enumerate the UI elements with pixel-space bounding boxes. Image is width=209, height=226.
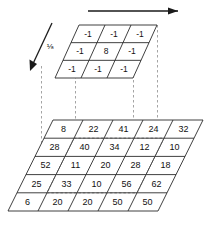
kernel-cell: -1 — [76, 46, 84, 56]
image-cell: 62 — [151, 179, 161, 189]
image-cell: 52 — [40, 160, 50, 170]
kernel-cell: -1 — [110, 29, 118, 39]
image-cell: 32 — [178, 124, 188, 134]
image-cell: 8 — [61, 124, 66, 134]
image-cell: 56 — [121, 179, 131, 189]
kernel-cell: -1 — [94, 64, 102, 74]
kernel-cell: -1 — [120, 64, 128, 74]
image-cell: 20 — [82, 197, 92, 207]
convolution-figure: ⅛ -1 -1 -1 -1 8 -1 -1 -1 -1 — [0, 0, 209, 226]
kernel-cell: -1 — [128, 46, 136, 56]
pixel-value-grid: 8 22 41 24 32 28 40 34 12 10 52 11 20 28… — [8, 120, 203, 211]
row-direction-arrow: ⅛ — [30, 23, 54, 71]
image-cell: 12 — [139, 142, 149, 152]
kernel-cell: -1 — [136, 29, 144, 39]
image-cell: 33 — [61, 179, 71, 189]
column-arrow-head — [168, 8, 178, 15]
image-cell: 40 — [79, 142, 89, 152]
image-cell: 34 — [109, 142, 119, 152]
kernel-scale-label: ⅛ — [47, 42, 54, 51]
image-cell: 11 — [71, 160, 80, 170]
image-cell: 25 — [31, 179, 41, 189]
image-cell: 22 — [88, 124, 98, 134]
image-cell: 6 — [25, 197, 30, 207]
image-cell: 18 — [160, 160, 170, 170]
image-cell: 20 — [100, 160, 110, 170]
image-cell: 28 — [49, 142, 59, 152]
image-cell: 50 — [142, 197, 152, 207]
kernel-cell: -1 — [68, 64, 76, 74]
image-cell: 10 — [169, 142, 179, 152]
kernel-cell: 8 — [104, 46, 109, 56]
row-arrow-head — [30, 60, 38, 72]
image-cell: 24 — [148, 124, 158, 134]
image-cell: 10 — [91, 179, 101, 189]
column-direction-arrow — [88, 8, 178, 15]
image-cell: 20 — [52, 197, 62, 207]
kernel-cell: -1 — [84, 29, 92, 39]
figure-canvas: ⅛ -1 -1 -1 -1 8 -1 -1 -1 -1 — [0, 0, 209, 226]
image-cell: 50 — [112, 197, 122, 207]
image-cell: 41 — [118, 124, 128, 134]
kernel-grid: -1 -1 -1 -1 8 -1 -1 -1 -1 — [55, 25, 157, 78]
image-cell: 28 — [130, 160, 140, 170]
